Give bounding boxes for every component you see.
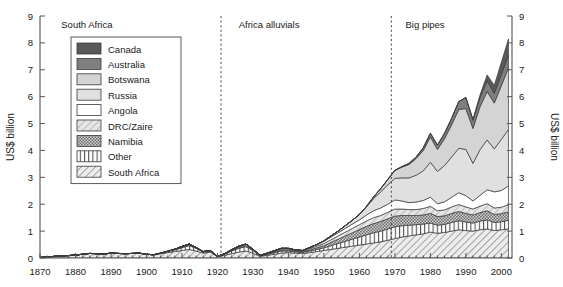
chart-container: 0011223344556677889918701880189019001910… <box>0 0 563 287</box>
xtick-label: 1890 <box>100 266 121 277</box>
legend-label-angola: Angola <box>108 105 138 116</box>
ytick-label-left: 8 <box>28 37 33 48</box>
y-axis-label-right: US$ billion <box>549 113 560 161</box>
legend-label-australia: Australia <box>108 59 146 70</box>
legend: CanadaAustraliaBotswanaRussiaAngolaDRC/Z… <box>71 37 181 184</box>
legend-label-russia: Russia <box>108 90 138 101</box>
xtick-label: 1940 <box>278 266 299 277</box>
xtick-label: 1980 <box>420 266 441 277</box>
xtick-label: 1990 <box>455 266 476 277</box>
era-south-africa: South Africa <box>61 19 113 30</box>
stacked-area-chart: 0011223344556677889918701880189019001910… <box>0 0 563 287</box>
legend-swatch-canada[interactable] <box>77 43 101 54</box>
ytick-label-right: 4 <box>519 145 524 156</box>
y-axis-label-left: US$ billion <box>5 113 16 161</box>
xtick-label: 1930 <box>242 266 263 277</box>
xtick-label: 1870 <box>29 266 50 277</box>
ytick-label-right: 2 <box>519 199 524 210</box>
legend-label-other: Other <box>108 151 132 162</box>
xtick-label: 2000 <box>491 266 512 277</box>
xtick-label: 1920 <box>207 266 228 277</box>
ytick-label-right: 1 <box>519 226 524 237</box>
ytick-label-left: 0 <box>28 253 33 264</box>
ytick-label-right: 8 <box>519 37 524 48</box>
era-big-pipes: Big pipes <box>406 19 445 30</box>
ytick-label-left: 4 <box>28 145 33 156</box>
legend-swatch-australia[interactable] <box>77 58 101 69</box>
legend-swatch-drc-zaire[interactable] <box>77 120 101 131</box>
ytick-label-right: 5 <box>519 118 524 129</box>
ytick-label-right: 6 <box>519 91 524 102</box>
ytick-label-left: 3 <box>28 172 33 183</box>
ytick-label-left: 1 <box>28 226 33 237</box>
legend-label-botswana: Botswana <box>108 74 150 85</box>
ytick-label-right: 3 <box>519 172 524 183</box>
xtick-label: 1950 <box>313 266 334 277</box>
legend-swatch-russia[interactable] <box>77 89 101 100</box>
legend-swatch-angola[interactable] <box>77 105 101 116</box>
xtick-label: 1960 <box>349 266 370 277</box>
ytick-label-right: 9 <box>519 11 524 22</box>
legend-label-canada: Canada <box>108 44 142 55</box>
ytick-label-left: 5 <box>28 118 33 129</box>
ytick-label-left: 7 <box>28 64 33 75</box>
legend-swatch-namibia[interactable] <box>77 135 101 146</box>
legend-swatch-south-africa[interactable] <box>77 166 101 177</box>
ytick-label-left: 2 <box>28 199 33 210</box>
xtick-label: 1900 <box>136 266 157 277</box>
ytick-label-left: 9 <box>28 11 33 22</box>
era-africa-alluvials: Africa alluvials <box>239 19 300 30</box>
era-annotations: South AfricaAfrica alluvialsBig pipes <box>61 19 445 30</box>
legend-label-namibia: Namibia <box>108 136 144 147</box>
legend-swatch-other[interactable] <box>77 151 101 162</box>
legend-label-drc-zaire: DRC/Zaire <box>108 121 153 132</box>
ytick-label-right: 0 <box>519 253 524 264</box>
legend-label-south-africa: South Africa <box>108 167 160 178</box>
ytick-label-left: 6 <box>28 91 33 102</box>
xtick-label: 1880 <box>65 266 86 277</box>
xtick-label: 1970 <box>384 266 405 277</box>
ytick-label-right: 7 <box>519 64 524 75</box>
xtick-label: 1910 <box>171 266 192 277</box>
legend-swatch-botswana[interactable] <box>77 74 101 85</box>
